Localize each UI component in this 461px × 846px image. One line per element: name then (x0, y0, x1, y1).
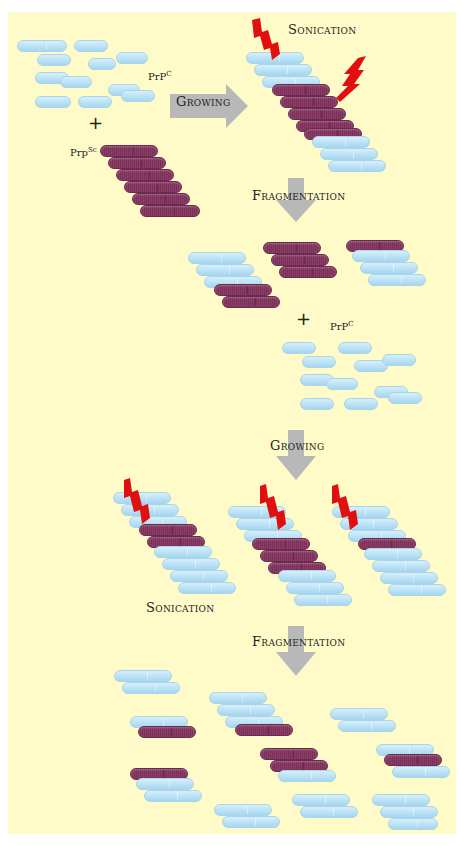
prpc-molecule (144, 790, 202, 802)
prpc-molecule (122, 682, 180, 694)
prpc-molecule (60, 76, 92, 88)
prpc-molecule (312, 136, 370, 148)
prpc-text: PrP (148, 71, 166, 82)
prpc-molecule (380, 572, 438, 584)
prpc-molecule (116, 52, 148, 64)
prpc-molecule (344, 398, 378, 410)
prpsc-molecule-pair (252, 538, 310, 550)
prpc-molecule (196, 264, 254, 276)
prpc-label-1: PrPC (148, 70, 172, 82)
prpsc-molecule-pair (280, 96, 338, 108)
sonication-bolt-icon (332, 56, 368, 102)
prpsc-molecule-pair (272, 84, 330, 96)
prpc-molecule (278, 570, 336, 582)
prpc-label-2: PrPC (330, 320, 354, 332)
prpc-molecule (282, 342, 316, 354)
prpc-molecule (178, 582, 236, 594)
prpc-molecule (326, 378, 358, 390)
prpc-molecule (254, 64, 312, 76)
prpc-molecule (37, 54, 71, 66)
sonication-label-1: Sonication (288, 22, 356, 37)
prpsc-molecule-pair (139, 524, 197, 536)
fragmentation-label-1: Fragmentation (252, 188, 345, 203)
prpc-molecule (338, 342, 372, 354)
prpsc-molecule-pair (124, 181, 182, 193)
prpc-molecule (292, 794, 350, 806)
prpsc-molecule-pair (263, 242, 321, 254)
prpc-molecule (214, 804, 272, 816)
sonication-bolt-icon (250, 18, 286, 60)
prpsc-molecule-pair (108, 157, 166, 169)
prpc-molecule (78, 96, 112, 108)
prpsc-molecule-pair (100, 145, 158, 157)
prpsc-molecule-pair (260, 748, 318, 760)
prpsc-molecule-pair (260, 550, 318, 562)
prpc-molecule (372, 560, 430, 572)
prpc-molecule (320, 148, 378, 160)
prpc-molecule (162, 558, 220, 570)
prpc-molecule (222, 816, 280, 828)
prpc-molecule (388, 818, 438, 830)
prpc-molecule (286, 582, 344, 594)
prpsc-molecule-pair (288, 108, 346, 120)
growing-label-2: Growing (270, 438, 325, 453)
prpc-molecule (121, 90, 155, 102)
prpc-molecule (278, 770, 336, 782)
prpsc-molecule-pair (271, 254, 329, 266)
prpsc-molecule-pair (132, 193, 190, 205)
prpc-sup: C (166, 70, 171, 78)
prpc-molecule (360, 262, 418, 274)
sonication-bolt-icon (258, 484, 290, 530)
sonication-label-2: Sonication (146, 600, 214, 615)
prpc-molecule (380, 806, 438, 818)
prpc-molecule (392, 766, 450, 778)
prpc-molecule (300, 806, 358, 818)
prpc-molecule (388, 392, 422, 404)
prpsc-molecule-pair (279, 266, 337, 278)
prpsc-molecule-pair (214, 284, 272, 296)
prpc-molecule (17, 40, 67, 52)
prpsc-molecule-pair (222, 296, 280, 308)
prpsc-text: Prp (70, 147, 88, 158)
prpc-molecule (74, 40, 108, 52)
prpc-molecule (188, 252, 246, 264)
prpc-text: PrP (330, 321, 348, 332)
prpsc-label: PrpSc (70, 146, 97, 158)
prpc-molecule (372, 794, 430, 806)
prpc-molecule (388, 584, 446, 596)
prpc-molecule (330, 708, 388, 720)
prpc-molecule (300, 398, 334, 410)
prpsc-molecule-pair (140, 205, 200, 217)
prpc-molecule (328, 160, 386, 172)
growing-label-1: Growing (176, 94, 231, 109)
prpsc-molecule-pair (116, 169, 174, 181)
prpc-molecule (35, 96, 71, 108)
prpc-sup: C (348, 320, 353, 328)
prpc-molecule (382, 354, 416, 366)
plus-sign-1: + (88, 112, 103, 133)
prpc-molecule (302, 356, 336, 368)
prpc-molecule (364, 548, 422, 560)
prpc-molecule (114, 670, 172, 682)
sonication-bolt-icon (330, 484, 362, 530)
plus-sign-2: + (296, 308, 311, 329)
prpc-molecule (217, 704, 275, 716)
prpc-molecule (170, 570, 228, 582)
prpc-molecule (136, 778, 194, 790)
prpsc-sup: Sc (88, 146, 97, 154)
prpc-molecule (368, 274, 426, 286)
prpc-molecule (154, 546, 212, 558)
prpc-molecule (209, 692, 267, 704)
prpc-molecule (338, 720, 396, 732)
fragmentation-label-2: Fragmentation (252, 634, 345, 649)
prpsc-molecule-pair (384, 754, 442, 766)
sonication-bolt-icon (122, 478, 154, 524)
prpc-molecule (88, 58, 116, 70)
prpsc-molecule-pair (235, 724, 293, 736)
prpc-molecule (294, 594, 352, 606)
prpc-molecule (352, 250, 410, 262)
prpsc-molecule-pair (138, 726, 196, 738)
